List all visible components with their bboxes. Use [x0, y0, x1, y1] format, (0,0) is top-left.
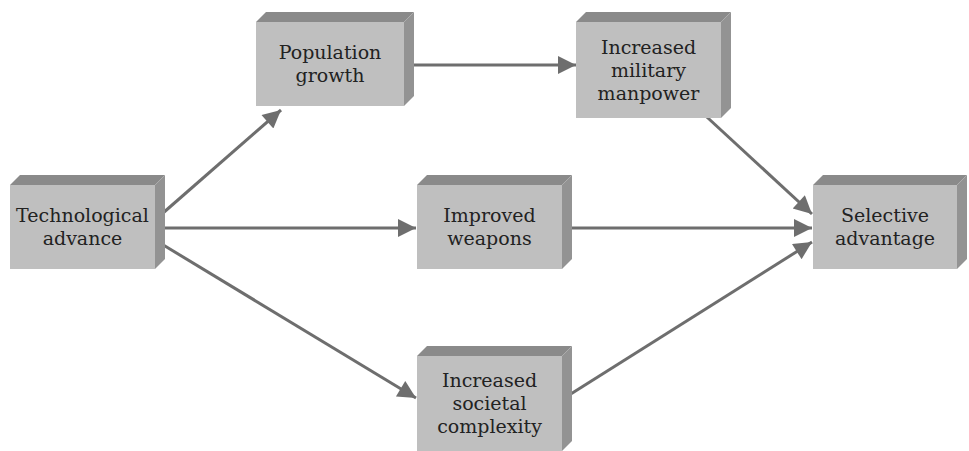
- label-line: military: [598, 59, 700, 82]
- label-line: advance: [16, 227, 149, 250]
- label-line: manpower: [598, 82, 700, 105]
- arrow-tech-to-soc: [160, 243, 416, 398]
- node-label: Increasedsocietalcomplexity: [417, 356, 562, 451]
- label-line: societal: [437, 392, 542, 415]
- label-line: Increased: [437, 369, 542, 392]
- arrow-soc-to-sel: [566, 242, 812, 397]
- label-line: Technological: [16, 204, 149, 227]
- node-label: Selectiveadvantage: [813, 185, 957, 269]
- arrow-tech-to-pop: [163, 110, 281, 213]
- node-label: Technologicaladvance: [10, 185, 155, 269]
- node-tech: Technologicaladvance: [10, 175, 165, 269]
- node-pop: Populationgrowth: [256, 12, 414, 106]
- node-mil: Increasedmilitarymanpower: [576, 12, 731, 118]
- label-line: growth: [279, 64, 382, 87]
- label-line: Population: [279, 41, 382, 64]
- node-weap: Improvedweapons: [417, 175, 572, 269]
- label-line: complexity: [437, 415, 542, 438]
- node-label: Populationgrowth: [256, 22, 404, 106]
- node-label: Improvedweapons: [417, 185, 562, 269]
- label-line: weapons: [443, 227, 535, 250]
- node-label: Increasedmilitarymanpower: [576, 22, 721, 118]
- arrow-mil-to-sel: [696, 107, 812, 214]
- node-sel: Selectiveadvantage: [813, 175, 967, 269]
- node-soc: Increasedsocietalcomplexity: [417, 346, 572, 451]
- label-line: advantage: [835, 227, 935, 250]
- label-line: Selective: [835, 204, 935, 227]
- label-line: Increased: [598, 36, 700, 59]
- label-line: Improved: [443, 204, 535, 227]
